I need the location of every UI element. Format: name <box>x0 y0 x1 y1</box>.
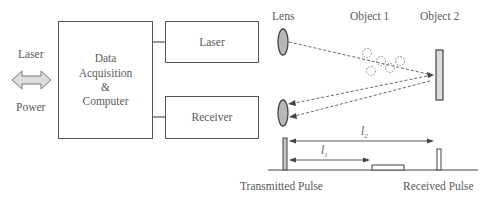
lens-label: Lens <box>272 11 294 23</box>
laser-block-label: Laser <box>199 35 225 49</box>
double-arrow-icon <box>12 71 51 89</box>
received-pulse-label: Received Pulse <box>403 181 474 193</box>
object2-reflector-icon <box>436 50 443 100</box>
transmitted-pulse-icon <box>283 138 287 170</box>
l1-distance-arrow <box>289 158 370 163</box>
laser-block: Laser <box>165 21 259 63</box>
daq-line4: Computer <box>83 94 129 108</box>
lens-bottom-icon <box>278 100 288 126</box>
object1-particles-icon <box>363 49 405 76</box>
l2-label: l2 <box>361 126 368 140</box>
daq-line2: Acquisition <box>79 66 133 80</box>
daq-line1: Data <box>95 51 117 65</box>
object2-label: Object 2 <box>420 11 459 23</box>
l1-subscript: 1 <box>324 151 328 159</box>
receiver-block-label: Receiver <box>192 110 233 124</box>
daq-line3: & <box>101 80 110 94</box>
l1-label: l1 <box>321 145 328 159</box>
object1-label: Object 1 <box>350 11 389 23</box>
lens-top-icon <box>278 29 288 55</box>
receiver-block: Receiver <box>165 96 259 139</box>
l2-subscript: 2 <box>364 132 368 140</box>
beam-paths <box>289 42 432 117</box>
object1-echo-pulse-icon <box>372 165 404 170</box>
data-acquisition-computer-block: Data Acquisition & Computer <box>58 21 153 139</box>
transmitted-pulse-label: Transmitted Pulse <box>240 181 323 193</box>
received-pulse-icon <box>437 149 441 170</box>
